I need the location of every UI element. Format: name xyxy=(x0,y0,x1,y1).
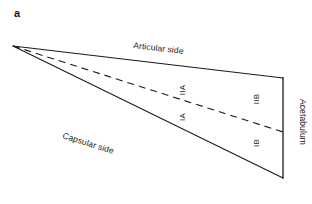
zone-label-ib: IB xyxy=(252,139,261,147)
zone-label-iia: IIA xyxy=(178,84,187,95)
wedge-diagram: Articular side Capsular side IIA IA IIB … xyxy=(0,0,312,204)
acetabulum-label: Acetabulum xyxy=(298,99,308,145)
figure-panel: a Articular side Capsular side IIA IA II… xyxy=(0,0,312,204)
articular-side-label: Articular side xyxy=(133,40,185,56)
capsular-side-line xyxy=(13,46,283,178)
zone-label-ia: IA xyxy=(178,113,187,121)
zone-divider-dashed-line xyxy=(13,46,283,132)
capsular-side-label: Capsular side xyxy=(61,130,115,156)
zone-label-iib: IIB xyxy=(252,94,261,104)
